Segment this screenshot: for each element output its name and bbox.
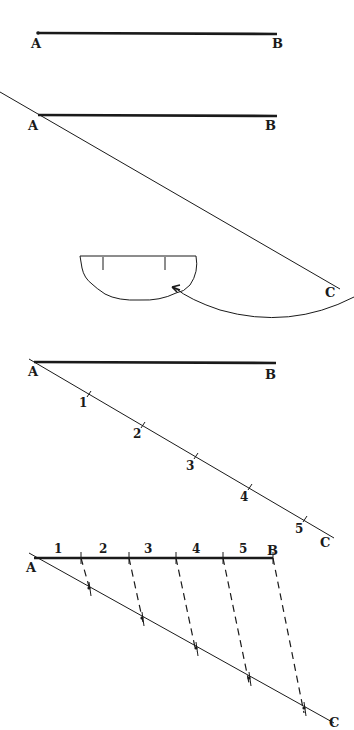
- label-a: A: [30, 36, 42, 51]
- segment-label-2: 2: [99, 542, 107, 556]
- segment-label-4: 4: [192, 542, 200, 556]
- step-4: A B C 1 2 3 4 5: [25, 542, 339, 730]
- step-3: A B C 1 2 3 4 5: [27, 359, 334, 550]
- parallel-dashed-lines: [81, 558, 304, 713]
- label-a: A: [27, 118, 39, 133]
- label-a: A: [25, 560, 37, 575]
- division-label-3: 3: [186, 459, 194, 473]
- segment-label-1: 1: [54, 542, 62, 556]
- point-a: [36, 31, 40, 35]
- division-label-4: 4: [240, 490, 248, 504]
- line-ac: [29, 553, 334, 723]
- ac-division-points: [87, 582, 306, 716]
- division-label-5: 5: [295, 522, 303, 536]
- division-label-1: 1: [79, 396, 87, 410]
- label-a: A: [27, 364, 39, 379]
- divider-instrument-icon: [80, 256, 197, 300]
- line-ab: [38, 115, 277, 116]
- diagram-canvas: A B A B C A B C 1 2 3: [0, 0, 354, 730]
- line-ab: [38, 33, 277, 34]
- line-ab: [34, 362, 276, 363]
- segment-label-5: 5: [239, 542, 247, 556]
- line-ac: [29, 359, 334, 538]
- label-c: C: [325, 285, 335, 300]
- step-1: A B: [30, 31, 283, 51]
- label-c: C: [329, 715, 339, 730]
- label-b: B: [265, 118, 276, 133]
- step-2: A B C: [0, 92, 354, 318]
- label-b: B: [265, 367, 276, 382]
- line-ac: [0, 92, 340, 289]
- division-label-2: 2: [133, 427, 141, 441]
- label-c: C: [320, 535, 330, 550]
- label-b: B: [272, 36, 283, 51]
- segment-label-3: 3: [144, 542, 152, 556]
